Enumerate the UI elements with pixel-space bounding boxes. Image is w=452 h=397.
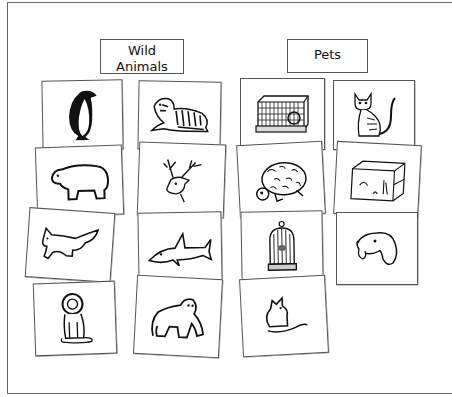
polar-bear-icon (47, 160, 112, 202)
card-gorilla[interactable] (133, 275, 223, 358)
lion-icon (52, 291, 98, 347)
wild-label-line2: Animals (101, 59, 183, 75)
pets-label: Pets (287, 39, 368, 73)
card-birdcage[interactable] (240, 210, 323, 282)
mouse-icon (258, 293, 310, 340)
card-fox[interactable] (25, 207, 116, 283)
card-polar-bear[interactable] (35, 145, 124, 218)
cat-icon (349, 88, 399, 142)
wild-label-line1: Wild (101, 43, 183, 59)
penguin-icon (62, 87, 103, 144)
deer-icon (158, 155, 206, 205)
card-deer[interactable] (137, 142, 227, 219)
card-hamster-cage[interactable] (240, 78, 325, 150)
shark-icon (147, 231, 214, 266)
tiger-icon (147, 94, 212, 137)
card-penguin[interactable] (41, 79, 123, 150)
card-aquarium[interactable] (333, 141, 422, 218)
hamster-cage-icon (254, 92, 312, 136)
pets-label-text: Pets (288, 43, 367, 63)
card-lion[interactable] (33, 281, 117, 357)
card-cat[interactable] (333, 80, 415, 150)
aquarium-icon (346, 156, 408, 203)
fox-icon (38, 224, 102, 266)
turtle-icon (251, 155, 311, 204)
birdcage-icon (267, 219, 298, 274)
card-mouse[interactable] (239, 275, 329, 357)
gorilla-icon (147, 291, 209, 342)
dog-icon (353, 227, 401, 271)
wild-animals-label: Wild Animals (100, 39, 184, 74)
card-dog[interactable] (336, 212, 418, 285)
card-turtle[interactable] (236, 141, 326, 218)
card-tiger[interactable] (137, 80, 221, 150)
